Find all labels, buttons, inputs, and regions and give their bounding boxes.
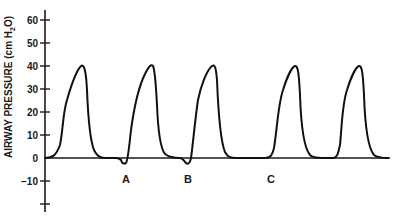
svg-text:20: 20	[27, 107, 39, 118]
y-tick-labels: 60 50 40 30 20 10 0 −10	[21, 15, 38, 187]
svg-text:60: 60	[27, 15, 39, 26]
pressure-waveform	[45, 65, 388, 163]
svg-text:10: 10	[27, 130, 39, 141]
svg-text:50: 50	[27, 38, 39, 49]
svg-text:30: 30	[27, 84, 39, 95]
annotation-b: B	[184, 173, 192, 185]
svg-text:−10: −10	[21, 176, 38, 187]
svg-text:40: 40	[27, 61, 39, 72]
y-axis-label: AIRWAY PRESSURE (cm H2O)	[3, 16, 16, 158]
svg-text:0: 0	[32, 153, 38, 164]
airway-pressure-chart: AIRWAY PRESSURE (cm H2O) 60 50 40 30 20 …	[0, 0, 400, 222]
annotation-a: A	[122, 173, 130, 185]
annotation-c: C	[267, 173, 275, 185]
